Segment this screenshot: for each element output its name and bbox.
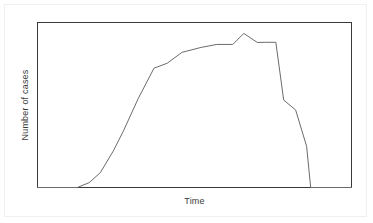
plot-frame <box>38 23 352 188</box>
x-axis-label: Time <box>37 196 352 206</box>
figure: Number of cases Time <box>0 0 373 223</box>
y-axis-label: Number of cases <box>20 45 30 165</box>
plot-svg <box>0 0 373 223</box>
epidemic-curve-chart: Number of cases Time <box>0 0 373 223</box>
